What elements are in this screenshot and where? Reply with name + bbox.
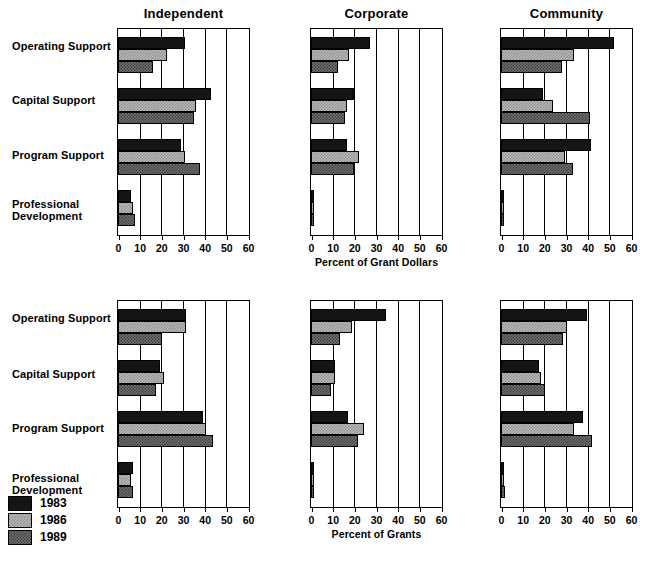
x-axis-tick-label: 10 [128,514,152,526]
bar [311,474,314,486]
x-axis-tick-label: 30 [365,514,389,526]
legend-swatch-1986-icon [8,513,32,528]
x-axis-tick [184,508,185,512]
bar [501,321,567,333]
bar [501,37,614,49]
bar [501,411,583,423]
x-axis-tick [312,508,313,512]
x-axis-tick-label: 50 [408,514,432,526]
bar [501,309,587,321]
bar [311,435,358,447]
x-axis-tick-label: 0 [490,514,514,526]
gridline [609,29,610,235]
x-axis-tick [442,508,443,512]
x-axis-tick-label: 0 [107,514,131,526]
x-axis-tick [567,508,568,512]
bar [311,309,386,321]
gridline [205,301,206,507]
bar [311,190,314,202]
bar [118,423,206,435]
gridline [609,301,610,507]
x-axis-tick-label: 10 [321,242,345,254]
plot-area [500,300,633,508]
bar [501,372,541,384]
bar [501,100,553,112]
bar [501,214,504,226]
x-axis-tick-label: 40 [386,514,410,526]
bar [501,384,545,396]
bar [118,486,133,498]
gridline [588,29,589,235]
x-axis-tick [184,236,185,240]
x-axis-tick [610,508,611,512]
x-axis-tick-label: 10 [511,514,535,526]
gridline [183,29,184,235]
gridline [226,29,227,235]
x-axis-tick-label: 30 [172,242,196,254]
x-axis-tick-label: 40 [386,242,410,254]
x-axis-tick [377,236,378,240]
x-axis-tick [119,508,120,512]
bar [118,474,131,486]
x-axis-title: Percent of Grant Dollars [310,256,443,268]
x-axis-tick [355,508,356,512]
x-axis-tick [502,508,503,512]
bar [118,384,156,396]
panel-title: Community [500,6,633,21]
x-axis-tick-label: 30 [365,242,389,254]
bar [501,435,592,447]
x-axis-tick-label: 50 [598,242,622,254]
x-axis-tick [420,508,421,512]
bar [311,321,352,333]
x-axis-tick-label: 20 [150,514,174,526]
x-axis-tick-label: 50 [215,514,239,526]
legend: 1983 1986 1989 [8,495,108,546]
bar [501,202,504,214]
bar [311,88,354,100]
gridline [376,301,377,507]
x-axis-tick-label: 30 [555,242,579,254]
x-axis-tick [205,508,206,512]
x-axis-tick [140,236,141,240]
bar [118,411,203,423]
plot-area [117,28,250,236]
x-axis-tick [545,236,546,240]
x-axis-tick [610,236,611,240]
bar [118,100,196,112]
x-axis-tick [398,508,399,512]
bar [311,423,364,435]
x-axis-tick-label: 20 [343,514,367,526]
bar [311,61,338,73]
bar [311,37,370,49]
gridline [398,29,399,235]
x-axis-title: Percent of Grants [310,528,443,540]
x-axis-tick-label: 60 [237,242,261,254]
gridline [354,29,355,235]
bar [311,486,314,498]
bar [118,202,133,214]
legend-swatch-1989-icon [8,530,32,545]
bar [311,100,347,112]
legend-label-1986: 1986 [40,513,67,527]
x-axis-tick [632,236,633,240]
bar [311,384,331,396]
legend-label-1989: 1989 [40,530,67,544]
bar [311,214,314,226]
x-axis-tick [377,508,378,512]
bar [118,214,135,226]
bar [118,88,211,100]
panel-title: Corporate [310,6,443,21]
x-axis-tick-label: 0 [300,242,324,254]
bar [311,360,335,372]
x-axis-tick-label: 0 [300,514,324,526]
bar [311,372,335,384]
bar [118,321,186,333]
x-axis-tick [567,236,568,240]
x-axis-tick [502,236,503,240]
bar [118,37,185,49]
x-axis-tick [333,236,334,240]
x-axis-tick [355,236,356,240]
bar [311,151,359,163]
x-axis-tick-label: 40 [193,514,217,526]
x-axis-tick-label: 40 [576,514,600,526]
